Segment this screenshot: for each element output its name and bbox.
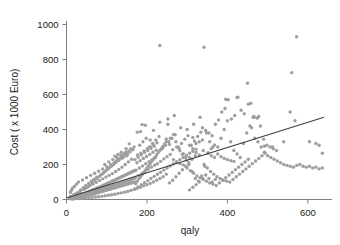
scatter-point <box>71 197 74 200</box>
scatter-point <box>98 179 101 182</box>
scatter-point <box>205 179 208 182</box>
scatter-point <box>209 170 212 173</box>
scatter-point <box>179 126 182 129</box>
scatter-point <box>144 162 147 165</box>
scatter-point <box>151 151 154 154</box>
scatter-point <box>134 168 137 171</box>
scatter-point <box>250 126 253 129</box>
scatter-point <box>82 188 85 191</box>
scatter-point <box>120 191 123 194</box>
scatter-point <box>162 168 165 171</box>
x-tick-label: 600 <box>300 207 316 218</box>
scatter-point <box>161 145 164 148</box>
scatter-point <box>156 173 159 176</box>
scatter-point <box>88 184 91 187</box>
scatter-point <box>141 164 144 167</box>
scatter-point <box>174 140 177 143</box>
scatter-point <box>260 145 263 148</box>
scatter-point <box>194 142 197 145</box>
scatter-point <box>243 160 246 163</box>
scatter-point <box>146 179 149 182</box>
scatter-point <box>241 170 244 173</box>
scatter-point <box>174 175 177 178</box>
scatter-point <box>228 180 231 183</box>
scatter-point <box>199 130 202 133</box>
scatter-point <box>305 165 308 168</box>
scatter-point <box>233 114 236 117</box>
scatter-point <box>187 161 190 164</box>
scatter-point <box>235 152 238 155</box>
scatter-point <box>139 130 142 133</box>
scatter-point <box>139 186 142 189</box>
scatter-point <box>78 197 81 200</box>
scatter-point <box>142 184 145 187</box>
scatter-point <box>120 165 123 168</box>
scatter-point <box>234 168 237 171</box>
scatter-point <box>266 154 269 157</box>
scatter-point <box>177 172 180 175</box>
scatter-point <box>128 150 131 153</box>
scatter-point <box>188 152 191 155</box>
scatter-point <box>275 149 278 152</box>
scatter-point <box>142 157 145 160</box>
scatter-point <box>135 161 138 164</box>
scatter-point <box>225 179 228 182</box>
scatter-point <box>224 176 227 179</box>
scatter-point <box>314 142 317 145</box>
scatter-point <box>123 190 126 193</box>
scatter-point <box>136 155 139 158</box>
scatter-point <box>214 184 217 187</box>
scatter-point <box>232 160 235 163</box>
scatter-point <box>148 182 151 185</box>
scatter-point <box>136 130 139 133</box>
scatter-point <box>201 177 204 180</box>
scatter-point <box>210 147 213 150</box>
scatter-point <box>210 134 213 137</box>
scatter-point <box>198 140 201 143</box>
scatter-point <box>195 174 198 177</box>
scatter-point <box>191 147 194 150</box>
scatter-point <box>181 163 184 166</box>
scatter-point <box>165 155 168 158</box>
scatter-point <box>113 154 116 157</box>
scatter-point <box>185 128 188 131</box>
x-tick-label: 400 <box>219 207 235 218</box>
scatter-point <box>194 147 197 150</box>
scatter-point <box>100 195 103 198</box>
scatter-point <box>183 137 186 140</box>
scatter-point <box>260 154 263 157</box>
scatter-point <box>74 197 77 200</box>
scatter-point <box>97 195 100 198</box>
scatter-point <box>292 165 295 168</box>
scatter-point <box>165 137 168 140</box>
scatter-point <box>246 81 249 84</box>
scatter-point <box>298 163 301 166</box>
scatter-point <box>107 194 110 197</box>
scatter-point <box>93 172 96 175</box>
scatter-point <box>120 151 123 154</box>
scatter-point <box>202 149 205 152</box>
y-tick-label: 200 <box>43 159 59 170</box>
scatter-point <box>192 123 195 126</box>
scatter-point <box>78 189 81 192</box>
scatter-point <box>124 147 127 150</box>
scatter-point <box>240 163 243 166</box>
scatter-point <box>181 152 184 155</box>
scatter-point <box>271 145 274 148</box>
scatter-point <box>152 180 155 183</box>
scatter-point <box>222 128 225 131</box>
scatter-point <box>257 157 260 160</box>
scatter-point <box>221 179 224 182</box>
y-tick-label: 800 <box>43 54 59 65</box>
scatter-point <box>180 142 183 145</box>
scatter-point <box>149 177 152 180</box>
scatter-point <box>168 143 171 146</box>
scatter-point <box>111 158 114 161</box>
scatter-point <box>227 173 230 176</box>
scatter-point <box>181 168 184 171</box>
scatter-point <box>219 137 222 140</box>
scatter-point <box>162 157 165 160</box>
scatter-point <box>192 172 195 175</box>
scatter-point <box>168 181 171 184</box>
scatter-point <box>232 149 235 152</box>
